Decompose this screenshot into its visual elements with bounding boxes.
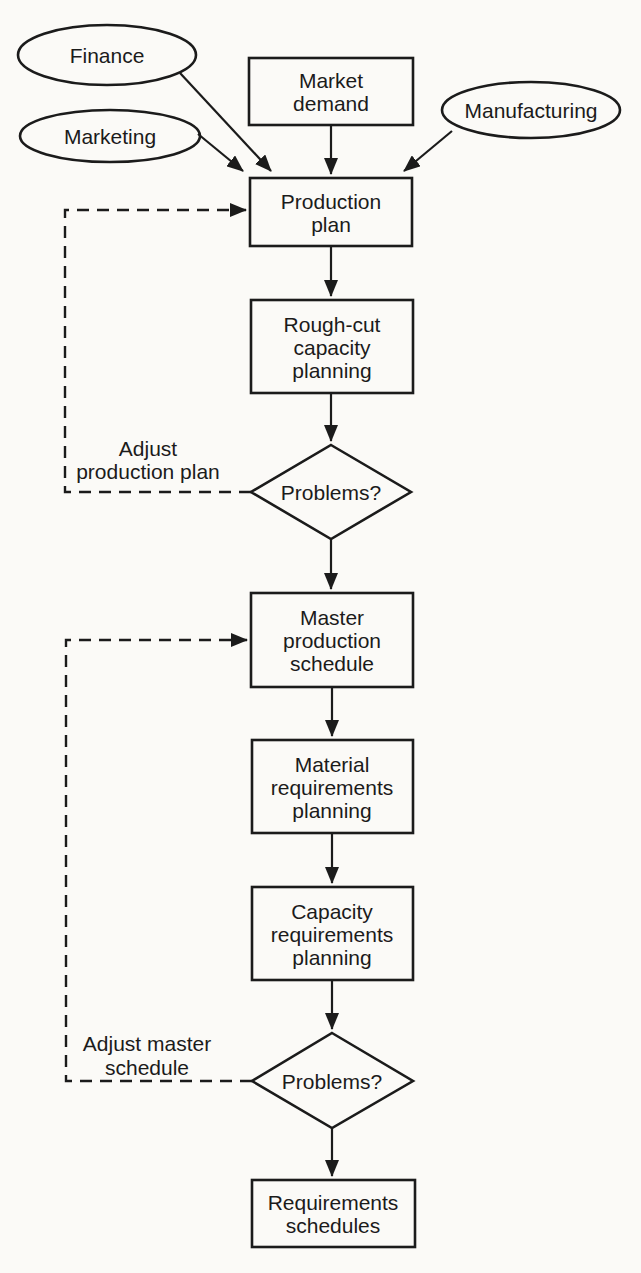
rough-cut-line1: Rough-cut [284, 313, 381, 336]
problems-2-label: Problems? [282, 1070, 382, 1093]
adjust-production-plan-line2: production plan [76, 460, 220, 483]
capacity-requirements-line1: Capacity [291, 900, 373, 923]
master-schedule-line1: Master [300, 606, 364, 629]
material-requirements-line1: Material [295, 753, 370, 776]
requirements-schedules-line1: Requirements [268, 1191, 399, 1214]
market-demand-line1: Market [299, 69, 363, 92]
material-requirements-line2: requirements [271, 776, 394, 799]
requirements-schedules-line2: schedules [286, 1214, 381, 1237]
manufacturing-label: Manufacturing [464, 99, 597, 122]
master-schedule-line3: schedule [290, 652, 374, 675]
problems-1-label: Problems? [281, 481, 381, 504]
material-requirements-line3: planning [292, 799, 371, 822]
market-demand-line2: demand [293, 92, 369, 115]
adjust-master-schedule-line2: schedule [105, 1056, 189, 1079]
finance-label: Finance [70, 44, 145, 67]
capacity-requirements-line3: planning [292, 946, 371, 969]
master-schedule-line2: production [283, 629, 381, 652]
rough-cut-line3: planning [292, 359, 371, 382]
capacity-requirements-line2: requirements [271, 923, 394, 946]
production-plan-line1: Production [281, 190, 381, 213]
marketing-label: Marketing [64, 125, 156, 148]
rough-cut-line2: capacity [293, 336, 371, 359]
adjust-master-schedule-line1: Adjust master [83, 1032, 211, 1055]
adjust-production-plan-line1: Adjust [119, 437, 178, 460]
production-plan-line2: plan [311, 213, 351, 236]
flowchart-canvas: Finance Marketing Manufacturing Market d… [0, 0, 641, 1273]
